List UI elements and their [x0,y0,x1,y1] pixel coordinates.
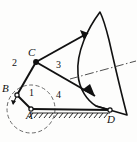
link-label-4: 4 [56,90,61,100]
axis-centerline [70,61,136,79]
link-3-upper-joint-wedge [80,30,88,40]
mechanism-figure: A B C D 1 2 3 4 [0,0,137,142]
curved-link-sector [78,12,127,115]
joint-label-B: B [2,83,9,94]
link-label-1: 1 [29,88,34,98]
joint-label-C: C [28,47,35,58]
joint-label-D: D [107,114,115,125]
link-label-3: 3 [56,60,61,70]
ground-hatch [29,113,110,118]
link-4-ground-frame [31,109,110,110]
diagram-canvas [0,0,137,142]
joint-C-marker [34,60,39,65]
link-3-upper-arm [36,33,88,62]
joint-label-A: A [26,110,33,121]
joint-D-marker [108,108,112,112]
link-label-2: 2 [12,58,17,68]
joint-B-marker [15,93,19,97]
